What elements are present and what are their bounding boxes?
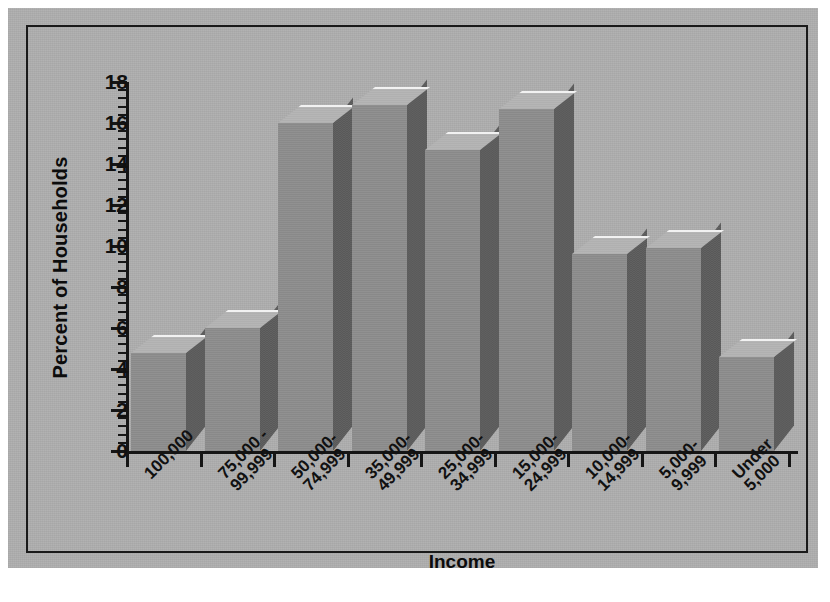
chart-plate: 024681012141618 100,00075,000 - 99,99950… (8, 8, 818, 568)
x-axis-title: Income (126, 551, 798, 573)
y-axis-title: Percent of Households (49, 138, 72, 398)
scanned-page: 024681012141618 100,00075,000 - 99,99950… (0, 0, 830, 602)
x-axis-category-labels: 100,00075,000 - 99,99950,000- 74,99935,0… (8, 8, 818, 568)
plot-area: 024681012141618 100,00075,000 - 99,99950… (8, 8, 818, 568)
